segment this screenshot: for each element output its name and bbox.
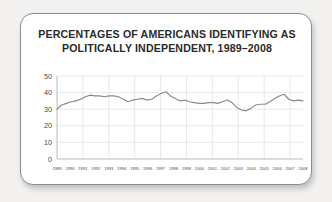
x-axis-tick-label: 2008 xyxy=(298,166,308,171)
x-axis-tick-label: 1996 xyxy=(143,166,153,171)
x-axis-tick-label: 2007 xyxy=(285,166,295,171)
y-axis-tick-label: 30 xyxy=(44,105,52,114)
screenshot-root: PERCENTAGES OF AMERICANS IDENTIFYING AS … xyxy=(0,0,332,202)
x-axis-tick-label: 1999 xyxy=(182,166,192,171)
chart-title-line-1: PERCENTAGES OF AMERICANS IDENTIFYING AS xyxy=(38,28,295,40)
x-axis-tick-label: 2006 xyxy=(273,166,283,171)
x-axis-tick-label: 1989 xyxy=(52,166,62,171)
x-axis-tick-label: 2003 xyxy=(234,166,244,171)
x-axis-tick-label: 1993 xyxy=(104,166,114,171)
y-axis-tick-label: 50 xyxy=(44,72,52,81)
x-axis-tick-label: 1995 xyxy=(130,166,140,171)
x-axis-tick-label: 1997 xyxy=(156,166,166,171)
x-axis-tick-label: 2000 xyxy=(195,166,205,171)
chart-card: PERCENTAGES OF AMERICANS IDENTIFYING AS … xyxy=(20,13,312,185)
y-axis-tick-label: 0 xyxy=(48,155,52,164)
y-axis-tick-label: 40 xyxy=(44,88,52,97)
x-axis-tick-label: 1991 xyxy=(78,166,88,171)
x-axis-tick-label: 2005 xyxy=(260,166,270,171)
chart-title: PERCENTAGES OF AMERICANS IDENTIFYING AS … xyxy=(21,28,313,55)
x-axis-tick-label: 1992 xyxy=(91,166,101,171)
x-axis-tick-label: 2002 xyxy=(221,166,231,171)
x-axis-tick-label: 2001 xyxy=(208,166,218,171)
x-axis-tick-label: 1994 xyxy=(117,166,127,171)
line-chart-svg: 0102030405019891990199119921993199419951… xyxy=(21,69,313,181)
y-axis-tick-label: 10 xyxy=(44,138,52,147)
x-axis-tick-label: 2004 xyxy=(247,166,257,171)
y-axis-tick-label: 20 xyxy=(44,121,52,130)
chart-plot-area: 0102030405019891990199119921993199419951… xyxy=(21,69,313,181)
data-series-line xyxy=(57,92,303,111)
x-axis-tick-label: 1990 xyxy=(65,166,75,171)
x-axis-tick-label: 1998 xyxy=(169,166,179,171)
chart-title-line-2: POLITICALLY INDEPENDENT, 1989–2008 xyxy=(21,42,313,56)
